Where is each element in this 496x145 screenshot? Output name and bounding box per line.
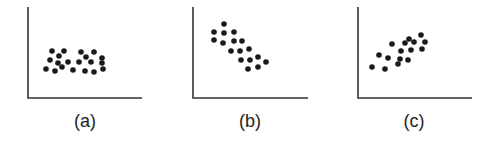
data-point xyxy=(397,56,403,62)
data-point xyxy=(389,41,395,47)
data-point xyxy=(405,57,411,63)
data-point xyxy=(402,40,408,46)
data-point xyxy=(408,47,414,53)
data-point xyxy=(419,46,425,52)
axes xyxy=(358,7,472,98)
panel-label-c: (c) xyxy=(384,111,444,132)
data-point xyxy=(418,32,424,38)
data-point xyxy=(395,61,401,67)
data-point xyxy=(376,52,382,58)
data-point xyxy=(398,48,404,54)
scatter-panel-c: (c) xyxy=(0,0,496,145)
data-point xyxy=(422,39,428,45)
data-point xyxy=(411,39,417,45)
data-point xyxy=(406,36,412,42)
data-point xyxy=(369,64,375,70)
data-point xyxy=(385,55,391,61)
data-point xyxy=(382,66,388,72)
